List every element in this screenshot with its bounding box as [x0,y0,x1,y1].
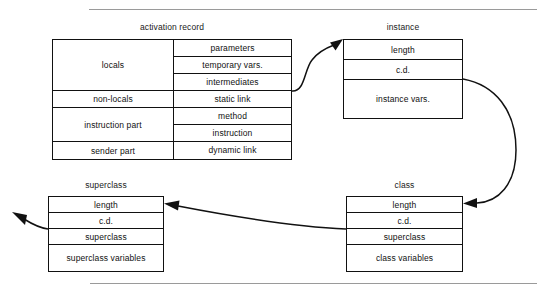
cell-superclass-length: length [49,197,163,213]
cell-intermediates: intermediates [174,74,291,91]
superclass-title: superclass [48,180,164,190]
top-horizontal-rule [89,9,537,10]
activation-record-right-column: parameters temporary vars. intermediates… [174,40,291,159]
cell-sender-part: sender part [53,142,173,159]
arrow-class-superclass-to-superclass [164,201,346,230]
instance-rows: length c.d. instance vars. [344,40,462,118]
instance-title: instance [343,22,463,32]
diagram-canvas: activation record locals non-locals inst… [0,0,537,294]
cell-instruction: instruction [174,125,291,142]
superclass-box: length c.d. superclass superclass variab… [48,196,164,272]
cell-method: method [174,108,291,125]
cell-dynamic-link: dynamic link [174,142,291,159]
class-box: length c.d. superclass class variables [346,196,463,272]
cell-instruction-part: instruction part [53,108,173,142]
class-rows: length c.d. superclass class variables [347,197,462,271]
cell-static-link: static link [174,91,291,108]
superclass-rows: length c.d. superclass superclass variab… [49,197,163,271]
cell-instance-vars: instance vars. [344,80,462,117]
cell-class-variables: class variables [347,245,462,270]
bottom-horizontal-rule [90,283,537,284]
cell-locals: locals [53,40,173,91]
cell-non-locals: non-locals [53,91,173,108]
class-title: class [346,180,463,190]
cell-class-cd: c.d. [347,213,462,229]
arrow-instance-cd-to-class [463,79,516,208]
cell-parameters: parameters [174,40,291,57]
instance-box: length c.d. instance vars. [343,39,463,119]
arrow-superclass-outgoing [12,212,48,229]
cell-superclass-cd: c.d. [49,213,163,229]
arrow-static-link-to-instance [292,39,343,91]
activation-record-title: activation record [52,22,292,32]
cell-class-length: length [347,197,462,213]
cell-class-superclass: superclass [347,229,462,245]
cell-temporary-vars: temporary vars. [174,57,291,74]
cell-superclass-superclass: superclass [49,229,163,245]
cell-instance-cd: c.d. [344,60,462,80]
activation-record-left-column: locals non-locals instruction part sende… [53,40,174,159]
cell-superclass-variables: superclass variables [49,245,163,270]
cell-instance-length: length [344,40,462,60]
activation-record-box: locals non-locals instruction part sende… [52,39,292,160]
